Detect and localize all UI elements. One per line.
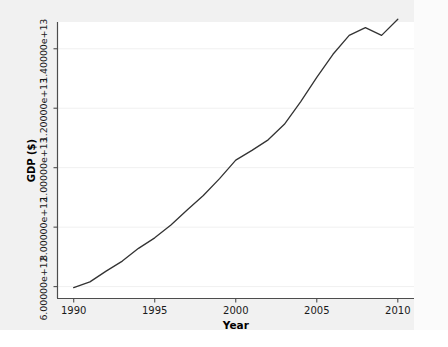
x-tick-label-1: 1995 bbox=[142, 305, 167, 316]
y-tick-label-1: 8.00000e+12 bbox=[38, 197, 49, 261]
x-tick-label-0: 1990 bbox=[61, 305, 86, 316]
chart-figure: 6.00000e+12 8.00000e+12 1.00000e+13 1.20… bbox=[0, 0, 448, 347]
y-tick-label-2: 1.00000e+13 bbox=[38, 138, 49, 202]
y-tick-label-3: 1.20000e+13 bbox=[38, 78, 49, 142]
gridlines-group bbox=[58, 49, 415, 287]
x-tick-label-3: 2005 bbox=[304, 305, 329, 316]
gdp-line-series bbox=[74, 19, 398, 287]
y-tick-label-4: 1.40000e+13 bbox=[38, 19, 49, 83]
chart-plot-svg bbox=[0, 0, 448, 347]
x-tick-label-4: 2010 bbox=[385, 305, 410, 316]
x-axis-title: Year bbox=[223, 319, 249, 331]
y-axis-title: GDP ($) bbox=[26, 139, 37, 182]
y-tick-label-0: 6.00000e+12 bbox=[38, 257, 49, 321]
x-tick-label-2: 2000 bbox=[223, 305, 248, 316]
